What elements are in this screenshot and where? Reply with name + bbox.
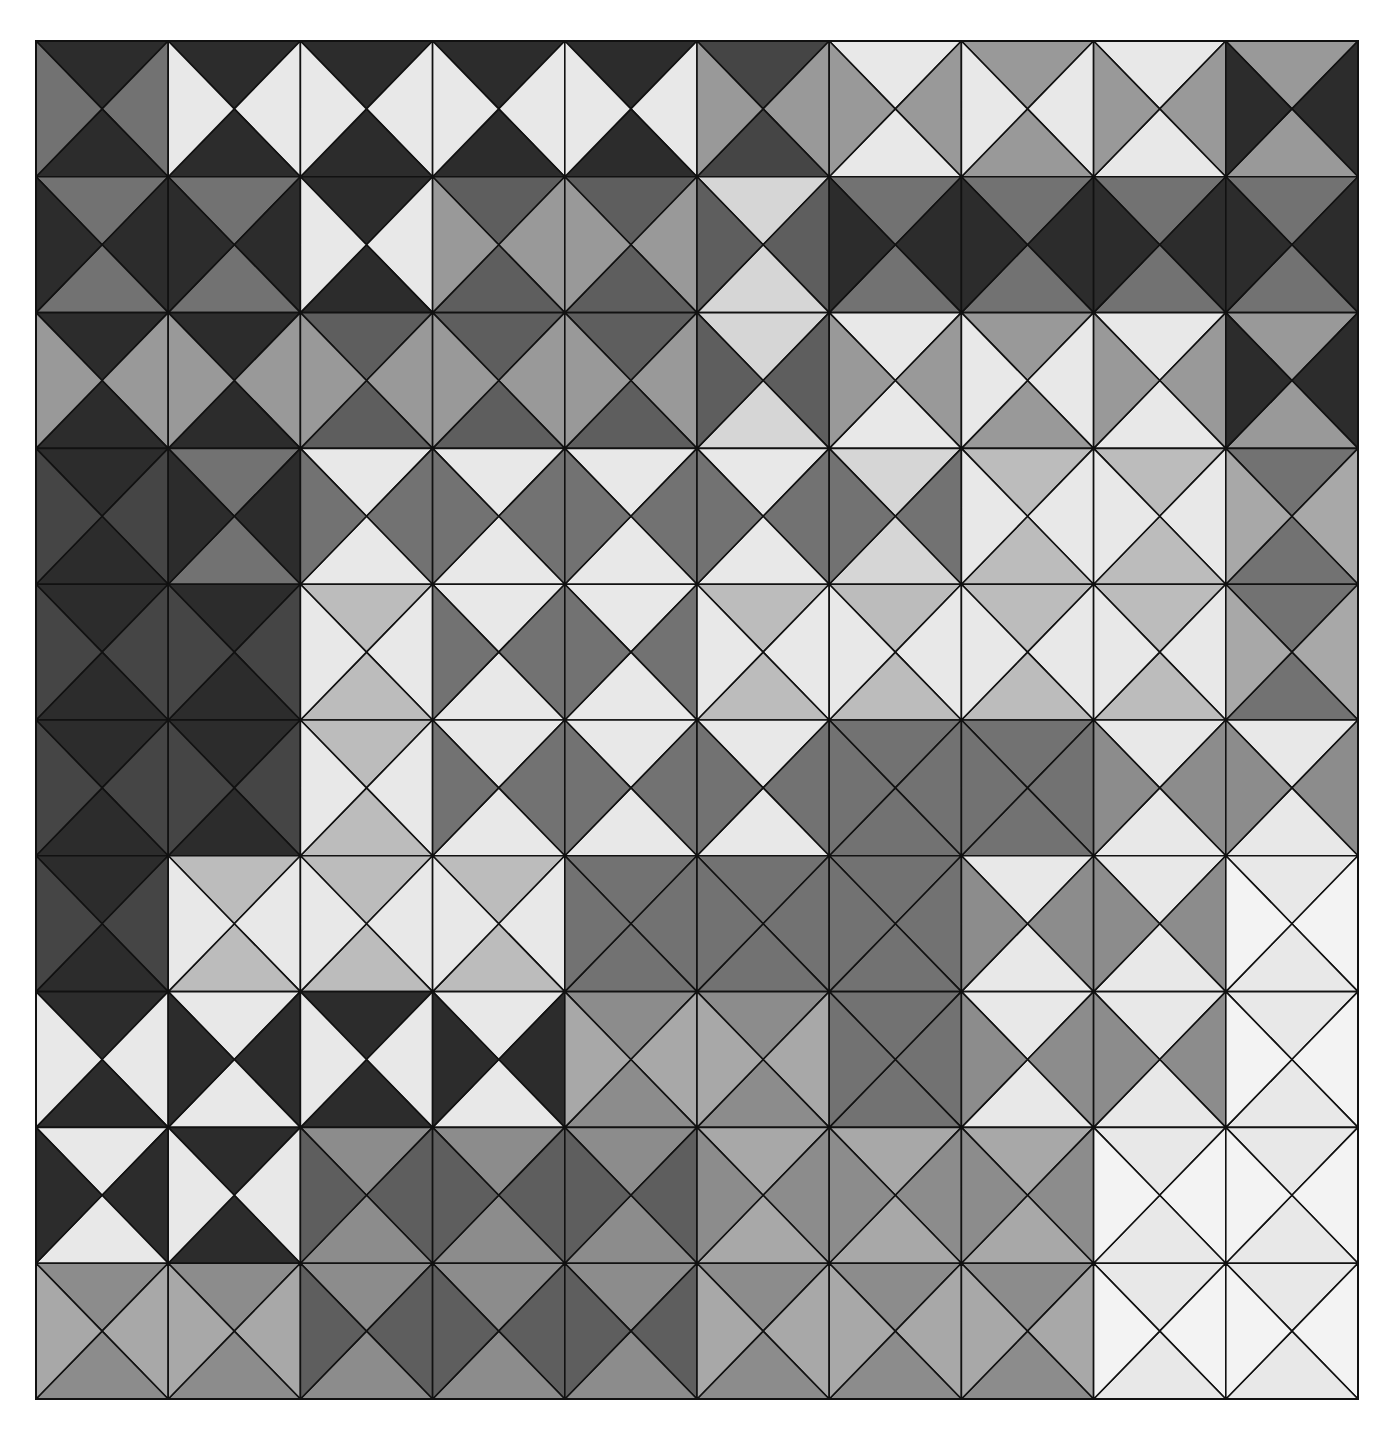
quilt-cell-r1-c7 <box>961 177 1093 313</box>
quilt-cell-r8-c4 <box>565 1127 697 1263</box>
quilt-cell-r4-c5 <box>697 584 829 720</box>
quilt-cell-r5-c3 <box>433 720 565 856</box>
quilt-cell-r3-c3 <box>433 448 565 584</box>
quilt-cell-r3-c5 <box>697 448 829 584</box>
quilt-cell-r8-c0 <box>36 1127 168 1263</box>
quilt-cell-r4-c9 <box>1226 584 1358 720</box>
quilt-cell-r9-c6 <box>829 1263 961 1399</box>
quilt-cell-r3-c9 <box>1226 448 1358 584</box>
quilt-cell-r7-c0 <box>36 992 168 1128</box>
quilt-cell-r4-c4 <box>565 584 697 720</box>
quilt-cell-r1-c1 <box>168 177 300 313</box>
quilt-cell-r8-c2 <box>300 1127 432 1263</box>
quilt-cell-r9-c7 <box>961 1263 1093 1399</box>
quilt-cell-r2-c9 <box>1226 313 1358 449</box>
quilt-pattern <box>35 40 1359 1400</box>
quilt-cell-r5-c4 <box>565 720 697 856</box>
quilt-cell-r2-c8 <box>1094 313 1226 449</box>
quilt-cell-r1-c2 <box>300 177 432 313</box>
quilt-cell-r8-c6 <box>829 1127 961 1263</box>
quilt-cell-r8-c8 <box>1094 1127 1226 1263</box>
quilt-cell-r9-c9 <box>1226 1263 1358 1399</box>
quilt-cell-r6-c5 <box>697 856 829 992</box>
quilt-cell-r7-c4 <box>565 992 697 1128</box>
quilt-cell-r5-c2 <box>300 720 432 856</box>
quilt-cell-r3-c0 <box>36 448 168 584</box>
quilt-cell-r1-c9 <box>1226 177 1358 313</box>
quilt-cell-r7-c7 <box>961 992 1093 1128</box>
quilt-cell-r2-c1 <box>168 313 300 449</box>
quilt-cell-r2-c7 <box>961 313 1093 449</box>
quilt-cell-r0-c4 <box>565 41 697 177</box>
quilt-cell-r1-c0 <box>36 177 168 313</box>
quilt-cell-r8-c9 <box>1226 1127 1358 1263</box>
quilt-cell-r5-c1 <box>168 720 300 856</box>
quilt-cell-r3-c4 <box>565 448 697 584</box>
quilt-cell-r9-c3 <box>433 1263 565 1399</box>
quilt-cell-r6-c0 <box>36 856 168 992</box>
quilt-cell-r3-c1 <box>168 448 300 584</box>
quilt-cell-r6-c8 <box>1094 856 1226 992</box>
quilt-cell-r0-c2 <box>300 41 432 177</box>
quilt-cell-r7-c8 <box>1094 992 1226 1128</box>
quilt-cell-r2-c0 <box>36 313 168 449</box>
quilt-cell-r5-c9 <box>1226 720 1358 856</box>
quilt-cell-r8-c5 <box>697 1127 829 1263</box>
quilt-cell-r2-c4 <box>565 313 697 449</box>
quilt-cell-r6-c1 <box>168 856 300 992</box>
quilt-cell-r8-c3 <box>433 1127 565 1263</box>
quilt-cell-r0-c0 <box>36 41 168 177</box>
quilt-cell-r1-c3 <box>433 177 565 313</box>
quilt-cell-r3-c6 <box>829 448 961 584</box>
quilt-cell-r2-c2 <box>300 313 432 449</box>
quilt-cell-r2-c3 <box>433 313 565 449</box>
quilt-cell-r0-c5 <box>697 41 829 177</box>
quilt-cell-r9-c2 <box>300 1263 432 1399</box>
quilt-cell-r4-c8 <box>1094 584 1226 720</box>
quilt-cell-r6-c9 <box>1226 856 1358 992</box>
quilt-cell-r5-c5 <box>697 720 829 856</box>
quilt-cell-r5-c6 <box>829 720 961 856</box>
quilt-cell-r6-c6 <box>829 856 961 992</box>
quilt-cell-r9-c4 <box>565 1263 697 1399</box>
quilt-cell-r4-c6 <box>829 584 961 720</box>
quilt-cell-r3-c7 <box>961 448 1093 584</box>
quilt-grid <box>35 40 1359 1400</box>
quilt-cell-r4-c2 <box>300 584 432 720</box>
quilt-cell-r3-c8 <box>1094 448 1226 584</box>
quilt-cell-r1-c8 <box>1094 177 1226 313</box>
quilt-cell-r5-c0 <box>36 720 168 856</box>
quilt-cell-r5-c7 <box>961 720 1093 856</box>
quilt-cell-r4-c1 <box>168 584 300 720</box>
quilt-cell-r1-c5 <box>697 177 829 313</box>
quilt-cell-r7-c3 <box>433 992 565 1128</box>
quilt-cell-r7-c9 <box>1226 992 1358 1128</box>
quilt-cell-r0-c1 <box>168 41 300 177</box>
quilt-cell-r0-c3 <box>433 41 565 177</box>
quilt-cell-r8-c1 <box>168 1127 300 1263</box>
quilt-cell-r6-c4 <box>565 856 697 992</box>
quilt-cell-r0-c8 <box>1094 41 1226 177</box>
quilt-cell-r7-c5 <box>697 992 829 1128</box>
quilt-cell-r9-c0 <box>36 1263 168 1399</box>
quilt-cell-r0-c6 <box>829 41 961 177</box>
quilt-cell-r0-c7 <box>961 41 1093 177</box>
quilt-cell-r9-c1 <box>168 1263 300 1399</box>
quilt-cell-r1-c6 <box>829 177 961 313</box>
quilt-cell-r1-c4 <box>565 177 697 313</box>
quilt-cell-r6-c2 <box>300 856 432 992</box>
quilt-cell-r7-c2 <box>300 992 432 1128</box>
quilt-cell-r4-c0 <box>36 584 168 720</box>
quilt-cell-r6-c7 <box>961 856 1093 992</box>
quilt-cell-r5-c8 <box>1094 720 1226 856</box>
quilt-cell-r4-c3 <box>433 584 565 720</box>
quilt-cell-r7-c6 <box>829 992 961 1128</box>
quilt-cell-r2-c6 <box>829 313 961 449</box>
quilt-cell-r9-c8 <box>1094 1263 1226 1399</box>
quilt-cell-r9-c5 <box>697 1263 829 1399</box>
quilt-cell-r0-c9 <box>1226 41 1358 177</box>
quilt-cell-r3-c2 <box>300 448 432 584</box>
quilt-cell-r6-c3 <box>433 856 565 992</box>
quilt-cell-r2-c5 <box>697 313 829 449</box>
quilt-cell-r4-c7 <box>961 584 1093 720</box>
